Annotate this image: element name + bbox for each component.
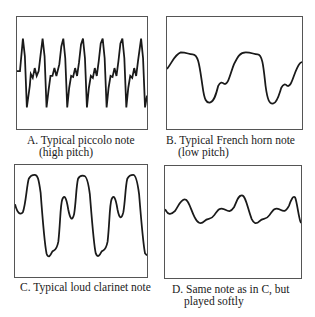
caption-d-line2: played softly bbox=[172, 295, 290, 307]
french-horn-waveform bbox=[167, 17, 302, 129]
caption-a: A. Typical piccolo note (high pitch) bbox=[27, 134, 135, 158]
clarinet-soft-waveform bbox=[165, 166, 301, 278]
caption-a-line1: A. Typical piccolo note bbox=[27, 134, 135, 146]
caption-b-line1: B. Typical French horn note bbox=[166, 134, 295, 146]
caption-a-line2: (high pitch) bbox=[27, 146, 135, 158]
piccolo-waveform bbox=[17, 17, 147, 129]
caption-b-line2: (low pitch) bbox=[166, 146, 295, 158]
caption-d: D. Same note as in C, but played softly bbox=[172, 283, 290, 307]
caption-c-line1: C. Typical loud clarinet note bbox=[20, 281, 151, 293]
waveform-frame-d bbox=[164, 165, 302, 279]
caption-d-line1: D. Same note as in C, but bbox=[172, 283, 290, 295]
caption-b: B. Typical French horn note (low pitch) bbox=[166, 134, 295, 158]
clarinet-loud-waveform bbox=[15, 165, 147, 277]
caption-c: C. Typical loud clarinet note bbox=[20, 281, 151, 293]
waveform-frame-a bbox=[16, 16, 148, 130]
waveform-frame-b bbox=[166, 16, 303, 130]
waveform-frame-c bbox=[14, 164, 148, 278]
